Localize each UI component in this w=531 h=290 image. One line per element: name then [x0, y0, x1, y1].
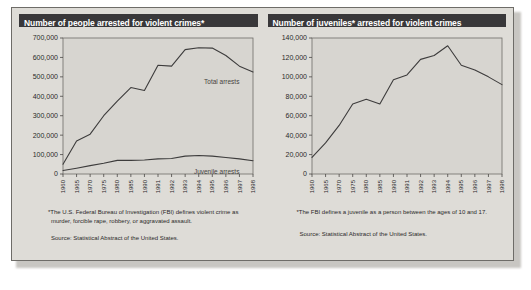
svg-text:1993: 1993: [431, 179, 437, 193]
svg-text:1960: 1960: [60, 179, 66, 193]
right-chart-source: Source: Statistical Abstract of the Unit…: [300, 230, 503, 239]
svg-text:80,000: 80,000: [285, 93, 307, 100]
svg-text:500,000: 500,000: [33, 73, 58, 80]
svg-text:1980: 1980: [114, 179, 120, 193]
svg-text:1985: 1985: [128, 179, 134, 193]
right-chart-plot: 020,00040,00060,00080,000100,000120,0001…: [268, 32, 507, 204]
charts-panel: Number of people arrested for violent cr…: [11, 7, 514, 261]
left-chart-title: Number of people arrested for violent cr…: [19, 14, 258, 27]
svg-text:1970: 1970: [336, 179, 342, 193]
left-chart-notes: *The U.S. Federal Bureau of Investigatio…: [19, 208, 258, 243]
left-chart-column: Number of people arrested for violent cr…: [12, 8, 263, 260]
svg-text:1985: 1985: [377, 179, 383, 193]
svg-text:0: 0: [54, 170, 58, 177]
svg-text:1997: 1997: [485, 179, 491, 193]
svg-text:1994: 1994: [196, 179, 202, 193]
svg-text:1991: 1991: [404, 179, 410, 193]
left-chart-svg: 0100,000200,000300,000400,000500,000600,…: [19, 32, 257, 204]
svg-text:1960: 1960: [309, 179, 315, 193]
svg-text:1975: 1975: [349, 179, 355, 193]
svg-text:40,000: 40,000: [285, 132, 307, 139]
left-chart-plot: 0100,000200,000300,000400,000500,000600,…: [19, 32, 258, 204]
svg-text:200,000: 200,000: [33, 132, 58, 139]
svg-text:1990: 1990: [142, 179, 148, 193]
svg-text:700,000: 700,000: [33, 34, 58, 41]
svg-text:1998: 1998: [250, 179, 256, 193]
svg-text:0: 0: [303, 170, 307, 177]
svg-text:1991: 1991: [155, 179, 161, 193]
right-chart-column: Number of juveniles* arrested for violen…: [263, 8, 514, 260]
svg-text:1970: 1970: [87, 179, 93, 193]
svg-text:60,000: 60,000: [285, 112, 307, 119]
infographic-root: Number of people arrested for violent cr…: [0, 0, 531, 290]
svg-text:1965: 1965: [74, 179, 80, 193]
series-label-juvenile-arrests: Juvenile arrests: [194, 168, 240, 175]
svg-text:300,000: 300,000: [33, 112, 58, 119]
svg-text:1965: 1965: [322, 179, 328, 193]
svg-text:100,000: 100,000: [281, 73, 306, 80]
svg-text:1995: 1995: [209, 179, 215, 193]
series-label-total-arrests: Total arrests: [204, 78, 240, 85]
svg-text:1995: 1995: [458, 179, 464, 193]
svg-text:400,000: 400,000: [33, 93, 58, 100]
right-chart-svg: 020,00040,00060,00080,000100,000120,0001…: [268, 32, 506, 204]
svg-text:1998: 1998: [499, 179, 505, 193]
svg-text:1996: 1996: [472, 179, 478, 193]
right-chart-notes: *The FBI defines a juvenile as a person …: [268, 208, 507, 240]
svg-text:1996: 1996: [223, 179, 229, 193]
svg-text:1992: 1992: [169, 179, 175, 193]
svg-text:100,000: 100,000: [33, 151, 58, 158]
svg-text:20,000: 20,000: [285, 151, 307, 158]
svg-text:1980: 1980: [363, 179, 369, 193]
svg-text:1994: 1994: [444, 179, 450, 193]
svg-text:120,000: 120,000: [281, 54, 306, 61]
svg-text:1997: 1997: [237, 179, 243, 193]
svg-text:1992: 1992: [417, 179, 423, 193]
right-chart-footnote: *The FBI defines a juvenile as a person …: [300, 208, 503, 217]
left-chart-source: Source: Statistical Abstract of the Unit…: [51, 234, 254, 243]
svg-text:1975: 1975: [101, 179, 107, 193]
right-chart-title: Number of juveniles* arrested for violen…: [268, 14, 507, 27]
left-chart-footnote: *The U.S. Federal Bureau of Investigatio…: [51, 208, 254, 227]
svg-text:1993: 1993: [182, 179, 188, 193]
svg-text:600,000: 600,000: [33, 54, 58, 61]
svg-text:140,000: 140,000: [281, 34, 306, 41]
svg-text:1990: 1990: [390, 179, 396, 193]
